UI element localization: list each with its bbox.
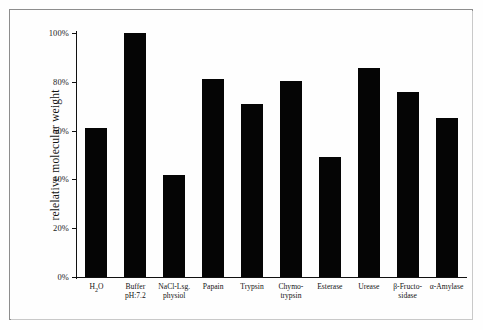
bar-group: α-Amylase — [427, 33, 466, 277]
bar-group: β-Fructo-sidase — [388, 33, 427, 277]
bar — [202, 79, 224, 277]
bar-group: NaCl-Lsg.physiol — [155, 33, 194, 277]
bar — [358, 68, 380, 277]
bar-group: Papain — [194, 33, 233, 277]
bar — [436, 118, 458, 277]
y-tick-label: 60% — [53, 126, 69, 136]
x-label-line-1: Buffer — [125, 282, 145, 291]
bar-group: Chymo-trypsin — [272, 33, 311, 277]
y-tick-label: 100% — [49, 28, 69, 38]
x-label-line-1: Papain — [203, 282, 224, 291]
y-tick-label: 80% — [53, 77, 69, 87]
x-label-line-2: trypsin — [278, 291, 303, 300]
figure-container: relelative molecular weight 0%20%40%60%8… — [0, 0, 483, 330]
bar — [124, 33, 146, 277]
x-axis-line — [76, 277, 467, 278]
x-label-line-1: Urease — [358, 282, 379, 291]
x-axis-category-label: Esterase — [317, 282, 342, 291]
y-tick-mark — [72, 277, 77, 278]
x-axis-category-label: H2O — [89, 282, 103, 295]
x-label-line-2: pH:7.2 — [125, 291, 146, 300]
plot-area: relelative molecular weight 0%20%40%60%8… — [77, 33, 466, 277]
bar-group: Esterase — [310, 33, 349, 277]
x-label-line-1: H2O — [89, 282, 103, 291]
x-label-line-1: Esterase — [317, 282, 342, 291]
x-axis-category-label: Papain — [203, 282, 224, 291]
x-axis-category-label: Trypsin — [240, 282, 263, 291]
bar-group: H2O — [77, 33, 116, 277]
x-axis-category-label: Chymo-trypsin — [278, 282, 303, 300]
y-tick-label: 0% — [57, 272, 69, 282]
x-label-line-2: physiol — [158, 291, 190, 300]
bar — [163, 175, 185, 277]
bar-group: Trypsin — [233, 33, 272, 277]
x-label-line-1: Chymo- — [278, 282, 303, 291]
x-label-line-1: α-Amylase — [430, 282, 464, 291]
bar — [280, 81, 302, 277]
bar-group: BufferpH:7.2 — [116, 33, 155, 277]
x-label-line-1: β-Fructo- — [393, 282, 422, 291]
bar — [319, 157, 341, 277]
x-label-line-1: Trypsin — [240, 282, 263, 291]
x-label-line-1: NaCl-Lsg. — [158, 282, 190, 291]
x-axis-category-label: β-Fructo-sidase — [393, 282, 422, 300]
bar — [241, 104, 263, 277]
x-axis-category-label: Urease — [358, 282, 379, 291]
bar — [397, 92, 419, 277]
y-axis-title: relelative molecular weight — [49, 89, 61, 220]
x-axis-category-label: BufferpH:7.2 — [125, 282, 146, 300]
x-axis-category-label: α-Amylase — [430, 282, 464, 291]
x-axis-category-label: NaCl-Lsg.physiol — [158, 282, 190, 300]
y-tick-label: 40% — [53, 174, 69, 184]
y-tick-label: 20% — [53, 223, 69, 233]
bar-group: Urease — [349, 33, 388, 277]
x-label-line-2: sidase — [393, 291, 422, 300]
bar — [85, 128, 107, 277]
